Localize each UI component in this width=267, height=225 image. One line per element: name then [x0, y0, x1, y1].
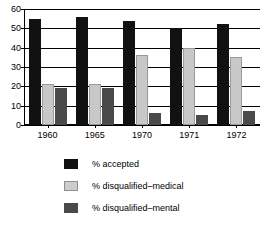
bar — [55, 88, 67, 125]
legend-swatch-icon — [64, 159, 78, 169]
bar-group — [71, 9, 118, 125]
chart-legend: % accepted% disqualified–medical% disqua… — [64, 153, 254, 219]
x-tick-group: 1960 — [24, 125, 71, 143]
x-tick-label: 1972 — [213, 130, 260, 140]
y-tick-label: 0 — [16, 121, 21, 130]
x-axis: 19601965197019711972 — [24, 125, 260, 143]
x-tick-mark — [142, 125, 143, 128]
x-tick-mark — [189, 125, 190, 128]
bar — [149, 113, 161, 125]
legend-item: % disqualified–medical — [64, 175, 254, 197]
bar-group — [118, 9, 165, 125]
y-tick-label: 50 — [11, 24, 21, 33]
y-tick-label: 60 — [11, 5, 21, 14]
legend-label: % accepted — [92, 159, 139, 169]
legend-item: % disqualified–mental — [64, 197, 254, 219]
bar — [102, 88, 114, 125]
y-tick-label: 10 — [11, 101, 21, 110]
x-tick-group: 1970 — [118, 125, 165, 143]
plot-area: 0102030405060 — [24, 9, 260, 125]
bar — [230, 57, 242, 125]
legend-swatch-icon — [64, 181, 78, 191]
bar — [136, 55, 148, 125]
bar — [196, 115, 208, 125]
bar — [76, 17, 88, 125]
x-tick-group: 1972 — [213, 125, 260, 143]
bar-group — [166, 9, 213, 125]
bar — [123, 21, 135, 125]
bar — [183, 48, 195, 125]
legend-label: % disqualified–medical — [92, 181, 184, 191]
bar-group — [213, 9, 260, 125]
legend-swatch-icon — [64, 203, 78, 213]
bar — [29, 19, 41, 125]
x-tick-label: 1971 — [166, 130, 213, 140]
y-tick-label: 40 — [11, 43, 21, 52]
bar-group — [24, 9, 71, 125]
bar — [217, 24, 229, 125]
bar — [42, 84, 54, 125]
x-tick-label: 1965 — [71, 130, 118, 140]
x-tick-group: 1971 — [166, 125, 213, 143]
bar — [89, 84, 101, 125]
y-tick-label: 30 — [11, 63, 21, 72]
x-tick-label: 1960 — [24, 130, 71, 140]
x-tick-mark — [95, 125, 96, 128]
x-tick-mark — [236, 125, 237, 128]
bar — [170, 28, 182, 125]
x-tick-label: 1970 — [118, 130, 165, 140]
legend-label: % disqualified–mental — [92, 203, 180, 213]
bars-layer — [24, 9, 260, 125]
x-tick-group: 1965 — [71, 125, 118, 143]
y-tick-label: 20 — [11, 82, 21, 91]
bar-chart-figure: 0102030405060 19601965197019711972 % acc… — [0, 0, 267, 225]
x-tick-mark — [48, 125, 49, 128]
legend-item: % accepted — [64, 153, 254, 175]
bar — [243, 111, 255, 125]
